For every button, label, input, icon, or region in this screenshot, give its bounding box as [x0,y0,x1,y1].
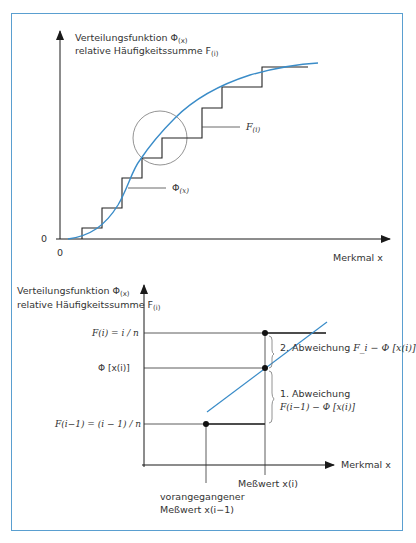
point-Fi1 [203,421,209,427]
bottom-ylabel-line1: Verteilungsfunktion Φ(x) [17,285,130,300]
bottom-xlabel: Merkmal x [341,459,391,471]
point-phi [262,365,268,371]
top-y-zero: 0 [41,233,47,245]
brace-dev1 [269,371,274,423]
tick-label-Fi1: F(i−1) = (i − 1) / n [55,418,141,430]
label-phi-x: Φ(x) [172,182,189,197]
point-Fi [262,330,268,336]
tick-label-phi: Φ [x(i)] [98,362,130,374]
top-ylabel-line2: relative Häufigkeitssumme F(i) [75,45,218,60]
dev1-formula: F(i−1) − Φ [x(i)] [280,401,355,413]
bottom-chart [142,285,334,483]
xi-label: Meßwert x(i) [238,478,298,490]
top-chart [56,31,390,239]
label-Fi: F(i) [246,121,260,136]
bottom-ylabel-line2: relative Häufigkeitssumme F(i) [17,299,160,314]
dev1-label: 1. Abweichung [280,388,350,400]
top-xlabel: Merkmal x [333,252,383,264]
xi1-label-line1: vorangegangener [160,491,245,503]
dev2-annotation: 2. Abweichung F_i − Φ [x(i)] [280,342,416,354]
top-x-zero: 0 [57,247,63,259]
distribution-curve-phi [68,63,318,239]
step-function-Fi [82,67,308,239]
tick-label-Fi: F(i) = i / n [92,327,139,339]
xi1-label-line2: Meßwert x(i−1) [160,504,234,516]
